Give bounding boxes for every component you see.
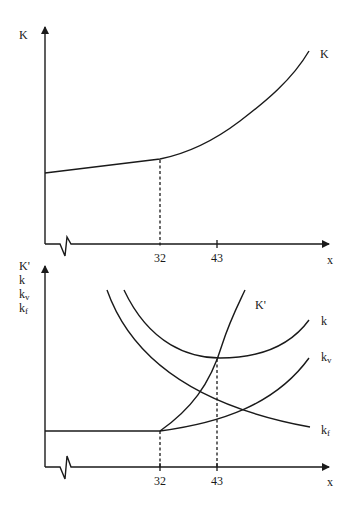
top-chart: K K 32 43 x (19, 27, 333, 267)
curve-label-kv: kv (321, 350, 332, 365)
bottom-chart: K' k kv kf K' k kv kf 32 43 x (19, 259, 333, 489)
bottom-tick-label-43: 43 (211, 474, 223, 488)
top-curve-label-K: K (320, 47, 329, 61)
curve-K (45, 51, 309, 173)
top-x-label: x (327, 253, 333, 267)
curve-K-prime (160, 290, 245, 431)
bottom-y-label-K-prime: K' (19, 259, 30, 273)
bottom-y-label-k: k (19, 273, 25, 287)
curve-label-k: k (321, 314, 327, 328)
bottom-y-label-kf: kf (19, 301, 28, 316)
bottom-y-label-kv: kv (19, 287, 30, 302)
top-x-axis-with-break (45, 237, 329, 256)
bottom-x-axis-with-break (45, 456, 329, 479)
bottom-tick-label-32: 32 (154, 474, 166, 488)
top-tick-label-43: 43 (211, 251, 223, 265)
curve-label-kf: kf (321, 423, 330, 438)
curve-label-K-prime: K' (255, 298, 266, 312)
bottom-x-label: x (327, 475, 333, 489)
curve-k (124, 290, 309, 358)
cost-curves-diagram: K K 32 43 x K' k kv kf K' k kv kf 32 43 (0, 0, 349, 513)
top-y-label: K (19, 28, 28, 42)
curve-kf (107, 290, 310, 427)
top-tick-label-32: 32 (154, 251, 166, 265)
curve-kv (160, 358, 309, 431)
